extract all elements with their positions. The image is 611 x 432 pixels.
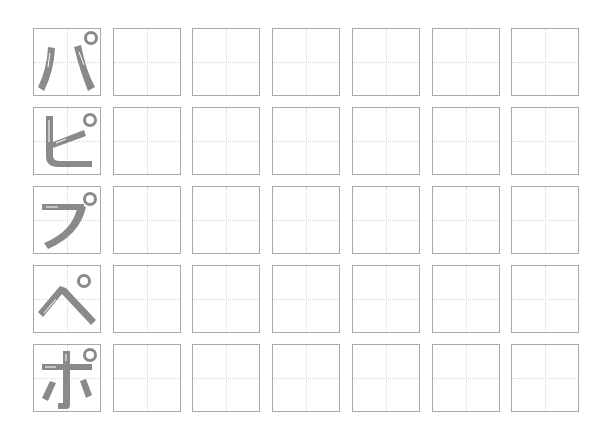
horizontal-guide	[512, 62, 578, 63]
horizontal-guide	[193, 299, 259, 300]
practice-box-pu-4[interactable]	[352, 186, 420, 254]
horizontal-guide	[273, 141, 339, 142]
horizontal-guide	[114, 220, 180, 221]
practice-box-po-2[interactable]	[192, 344, 260, 412]
practice-row-pu	[33, 186, 593, 255]
practice-box-pe-3[interactable]	[272, 265, 340, 333]
stroke-order-po-icon	[34, 345, 100, 411]
practice-box-pa-5[interactable]	[432, 28, 500, 96]
practice-box-pi-2[interactable]	[192, 107, 260, 175]
practice-box-pe-4[interactable]	[352, 265, 420, 333]
stroke-order-pu-icon	[34, 187, 100, 253]
horizontal-guide	[193, 378, 259, 379]
practice-box-po-4[interactable]	[352, 344, 420, 412]
practice-box-pu-6[interactable]	[511, 186, 579, 254]
practice-box-pa-3[interactable]	[272, 28, 340, 96]
practice-box-pu-3[interactable]	[272, 186, 340, 254]
stroke-order-pa-icon	[34, 29, 100, 95]
horizontal-guide	[193, 62, 259, 63]
model-character-pi	[33, 107, 101, 175]
stroke-order-pe-icon	[34, 266, 100, 332]
practice-box-pa-1[interactable]	[113, 28, 181, 96]
horizontal-guide	[193, 141, 259, 142]
practice-box-pe-2[interactable]	[192, 265, 260, 333]
horizontal-guide	[273, 62, 339, 63]
horizontal-guide	[114, 141, 180, 142]
horizontal-guide	[193, 220, 259, 221]
practice-box-pe-1[interactable]	[113, 265, 181, 333]
horizontal-guide	[114, 299, 180, 300]
horizontal-guide	[433, 299, 499, 300]
practice-box-pe-5[interactable]	[432, 265, 500, 333]
practice-box-po-5[interactable]	[432, 344, 500, 412]
horizontal-guide	[512, 141, 578, 142]
horizontal-guide	[353, 378, 419, 379]
model-character-pe	[33, 265, 101, 333]
model-character-po	[33, 344, 101, 412]
practice-box-po-1[interactable]	[113, 344, 181, 412]
practice-box-pi-6[interactable]	[511, 107, 579, 175]
practice-box-pi-4[interactable]	[352, 107, 420, 175]
horizontal-guide	[273, 378, 339, 379]
practice-box-pi-5[interactable]	[432, 107, 500, 175]
horizontal-guide	[273, 299, 339, 300]
horizontal-guide	[512, 220, 578, 221]
practice-row-pi	[33, 107, 593, 176]
horizontal-guide	[512, 299, 578, 300]
practice-box-pa-6[interactable]	[511, 28, 579, 96]
horizontal-guide	[114, 62, 180, 63]
horizontal-guide	[353, 62, 419, 63]
practice-box-pu-2[interactable]	[192, 186, 260, 254]
practice-box-pi-1[interactable]	[113, 107, 181, 175]
practice-row-pe	[33, 265, 593, 334]
horizontal-guide	[433, 220, 499, 221]
practice-box-pi-3[interactable]	[272, 107, 340, 175]
practice-box-po-6[interactable]	[511, 344, 579, 412]
practice-row-po	[33, 344, 593, 413]
practice-box-pa-2[interactable]	[192, 28, 260, 96]
practice-box-po-3[interactable]	[272, 344, 340, 412]
practice-row-pa	[33, 28, 593, 97]
practice-box-pu-5[interactable]	[432, 186, 500, 254]
katakana-practice-sheet	[0, 0, 611, 432]
practice-box-pa-4[interactable]	[352, 28, 420, 96]
practice-box-pe-6[interactable]	[511, 265, 579, 333]
horizontal-guide	[353, 220, 419, 221]
horizontal-guide	[433, 62, 499, 63]
horizontal-guide	[512, 378, 578, 379]
horizontal-guide	[353, 141, 419, 142]
horizontal-guide	[433, 141, 499, 142]
horizontal-guide	[273, 220, 339, 221]
horizontal-guide	[433, 378, 499, 379]
practice-box-pu-1[interactable]	[113, 186, 181, 254]
horizontal-guide	[114, 378, 180, 379]
model-character-pa	[33, 28, 101, 96]
horizontal-guide	[353, 299, 419, 300]
model-character-pu	[33, 186, 101, 254]
stroke-order-pi-icon	[34, 108, 100, 174]
